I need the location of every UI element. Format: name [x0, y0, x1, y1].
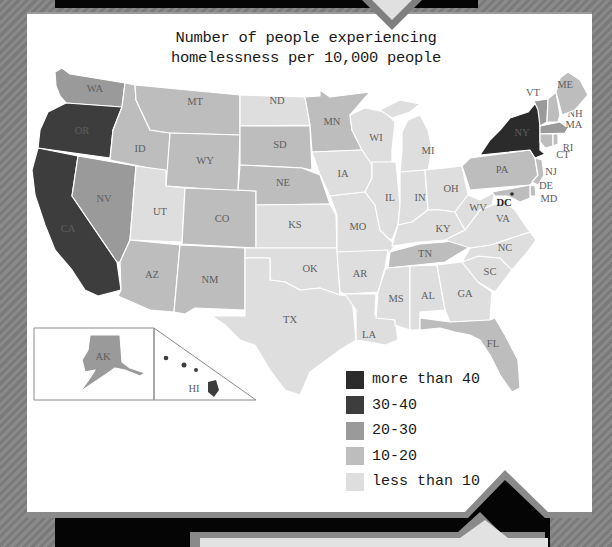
state-PA[interactable]: PA: [462, 150, 538, 190]
svg-text:UT: UT: [153, 206, 168, 217]
svg-text:OR: OR: [75, 125, 90, 136]
svg-text:AZ: AZ: [145, 269, 159, 280]
map-legend: more than 40 30-40 20-30 10-20 less than…: [346, 367, 480, 495]
svg-text:WI: WI: [369, 132, 383, 143]
svg-text:IA: IA: [337, 168, 348, 179]
state-WY[interactable]: WY: [166, 133, 240, 191]
svg-text:LA: LA: [362, 329, 376, 340]
svg-text:DC: DC: [496, 197, 511, 208]
svg-text:IL: IL: [385, 192, 395, 203]
svg-text:IN: IN: [414, 192, 425, 203]
svg-text:CA: CA: [61, 223, 76, 234]
svg-text:SD: SD: [273, 139, 287, 150]
legend-swatch: [346, 473, 364, 491]
svg-text:NM: NM: [202, 274, 220, 285]
svg-text:MI: MI: [422, 145, 435, 156]
legend-swatch: [346, 422, 364, 440]
svg-text:PA: PA: [496, 164, 509, 175]
legend-swatch: [346, 447, 364, 465]
svg-text:DE: DE: [539, 180, 553, 191]
us-choropleth-map: WA OR CA ID NV MT WY UT CO AZ NM: [0, 0, 612, 547]
svg-text:HI: HI: [188, 383, 200, 394]
legend-item-30-40: 30-40: [346, 393, 480, 419]
svg-text:ME: ME: [557, 79, 573, 90]
svg-text:ID: ID: [134, 143, 145, 154]
svg-text:VA: VA: [496, 213, 510, 224]
state-MT[interactable]: MT: [135, 85, 240, 135]
svg-text:NY: NY: [514, 127, 530, 138]
svg-text:MT: MT: [187, 96, 203, 107]
svg-text:RI: RI: [563, 142, 574, 153]
svg-text:MS: MS: [388, 293, 403, 304]
svg-text:MA: MA: [566, 119, 583, 130]
state-ND[interactable]: ND: [240, 95, 310, 126]
state-OR[interactable]: OR: [38, 103, 122, 158]
svg-text:WA: WA: [87, 83, 104, 94]
svg-text:FL: FL: [487, 338, 499, 349]
svg-text:AL: AL: [421, 290, 435, 301]
svg-text:NE: NE: [276, 177, 290, 188]
svg-text:VT: VT: [526, 87, 541, 98]
legend-item-10-20: 10-20: [346, 444, 480, 470]
svg-text:AR: AR: [353, 268, 368, 279]
state-AZ[interactable]: AZ: [118, 240, 180, 312]
svg-text:MO: MO: [350, 221, 367, 232]
svg-text:MN: MN: [324, 116, 341, 127]
state-WA[interactable]: WA: [55, 68, 125, 107]
svg-text:WV: WV: [469, 202, 487, 213]
legend-item-less-than-10: less than 10: [346, 469, 480, 495]
svg-text:AK: AK: [95, 351, 111, 362]
state-NY[interactable]: NY: [480, 100, 545, 158]
alaska-hawaii-inset: [34, 328, 256, 400]
legend-item-more-than-40: more than 40: [346, 367, 480, 393]
svg-text:NV: NV: [96, 193, 112, 204]
svg-text:NJ: NJ: [545, 166, 557, 177]
svg-text:TX: TX: [283, 314, 297, 325]
legend-swatch: [346, 371, 364, 389]
state-KS[interactable]: KS: [256, 204, 337, 248]
svg-text:CO: CO: [215, 213, 230, 224]
svg-text:OK: OK: [302, 263, 318, 274]
state-SD[interactable]: SD: [240, 126, 312, 170]
state-NM[interactable]: NM: [174, 245, 245, 314]
legend-swatch: [346, 396, 364, 414]
svg-text:WY: WY: [196, 155, 214, 166]
legend-item-20-30: 20-30: [346, 418, 480, 444]
svg-text:KS: KS: [288, 219, 302, 230]
svg-text:TN: TN: [418, 248, 432, 259]
svg-text:NC: NC: [498, 242, 513, 253]
state-ME[interactable]: ME: [556, 72, 588, 115]
svg-text:KY: KY: [435, 223, 451, 234]
svg-text:ND: ND: [269, 95, 285, 106]
svg-text:SC: SC: [484, 266, 497, 277]
svg-text:MD: MD: [541, 193, 558, 204]
state-CO[interactable]: CO: [182, 188, 256, 248]
state-AK[interactable]: AK: [80, 335, 145, 392]
svg-text:GA: GA: [457, 288, 473, 299]
svg-text:OH: OH: [443, 183, 459, 194]
state-HI[interactable]: HI: [164, 356, 219, 397]
